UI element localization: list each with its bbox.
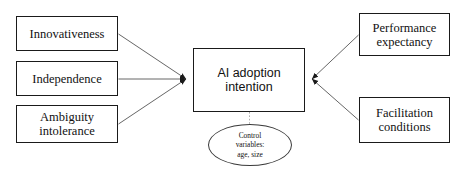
node-control-variables[interactable]: Control variables: age, size bbox=[208, 124, 292, 166]
connector-innovativeness-to-center bbox=[119, 34, 187, 79]
node-ai-adoption-intention[interactable]: AI adoption intention bbox=[193, 48, 305, 112]
node-innovativeness-label: Innovativeness bbox=[30, 27, 105, 41]
node-facilitation-conditions[interactable]: Facilitation conditions bbox=[359, 97, 450, 143]
node-performance-expectancy-label: Performance expectancy bbox=[373, 21, 437, 49]
connector-ambiguity-intolerance-to-center bbox=[119, 79, 187, 124]
node-ambiguity-intolerance[interactable]: Ambiguity intolerance bbox=[16, 105, 118, 143]
node-innovativeness[interactable]: Innovativeness bbox=[16, 16, 118, 51]
node-ambiguity-intolerance-label: Ambiguity intolerance bbox=[39, 110, 95, 138]
connector-performance-expectancy-to-center bbox=[312, 35, 359, 79]
node-control-variables-label: Control variables: age, size bbox=[236, 131, 265, 159]
node-facilitation-conditions-label: Facilitation conditions bbox=[376, 106, 433, 134]
node-independence-label: Independence bbox=[32, 72, 101, 86]
node-independence[interactable]: Independence bbox=[16, 61, 118, 96]
connector-facilitation-conditions-to-center bbox=[312, 79, 359, 120]
node-ai-adoption-intention-label: AI adoption intention bbox=[217, 66, 280, 94]
conceptual-model-diagram: Innovativeness Independence Ambiguity in… bbox=[0, 0, 465, 176]
node-performance-expectancy[interactable]: Performance expectancy bbox=[359, 13, 450, 56]
